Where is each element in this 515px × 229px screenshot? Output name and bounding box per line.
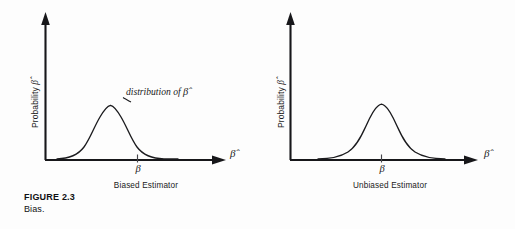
y-axis-label-biased: Probability β̂ — [30, 80, 40, 128]
y-axis-label-unbiased: Probability β̂ — [276, 80, 286, 128]
distribution-curve-unbiased — [318, 104, 445, 159]
plot-drawing-layer — [0, 0, 515, 229]
curve-annotation-symbol-biased: β̂ — [183, 86, 188, 97]
x-axis-label-biased: β̂ — [230, 147, 235, 159]
panel-caption-biased: Biased Estimator — [86, 181, 206, 190]
y-axis-arrowhead-unbiased — [286, 12, 295, 25]
y-axis-label-text-unbiased: Probability — [276, 85, 286, 128]
y-axis-label-symbol-biased: β̂ — [30, 80, 40, 85]
panel-unbiased-axes — [286, 12, 478, 165]
distribution-curve-biased — [57, 105, 178, 159]
x-axis-arrowhead-unbiased — [464, 155, 478, 164]
figure-title-label: Bias. — [24, 204, 75, 216]
figure-number-label: FIGURE 2.3 — [24, 192, 75, 204]
figure-container: Probability β̂ distribution of β̂ β β̂ B… — [0, 0, 515, 229]
y-axis-arrowhead-biased — [41, 12, 50, 25]
x-tick-label-unbiased: β — [375, 163, 389, 174]
panel-caption-unbiased: Unbiased Estimator — [330, 181, 450, 190]
x-tick-label-biased: β — [131, 163, 145, 174]
figure-caption: FIGURE 2.3 Bias. — [24, 192, 75, 215]
annotation-leader-line-biased — [123, 98, 131, 103]
y-axis-label-text-biased: Probability — [30, 85, 40, 128]
y-axis-label-symbol-unbiased: β̂ — [276, 80, 286, 85]
x-axis-arrowhead-biased — [212, 155, 226, 164]
x-axis-label-unbiased: β̂ — [484, 147, 489, 159]
curve-annotation-text-biased: distribution of — [126, 86, 183, 97]
curve-annotation-biased: distribution of β̂ — [126, 86, 188, 97]
